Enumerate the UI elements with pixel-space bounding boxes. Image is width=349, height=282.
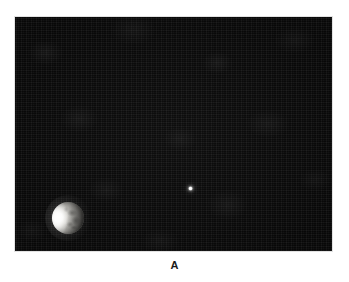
point-object [189,187,192,190]
crescent-body-disk [52,202,84,234]
crescent-body-surface [52,202,84,234]
crescent-body-highlight [52,202,84,234]
figure-caption: A [0,259,349,271]
crescent-body [52,202,84,234]
crescent-body-terminator [52,202,84,234]
figure-panel-a: A [0,0,349,282]
astronomical-image [14,16,333,252]
